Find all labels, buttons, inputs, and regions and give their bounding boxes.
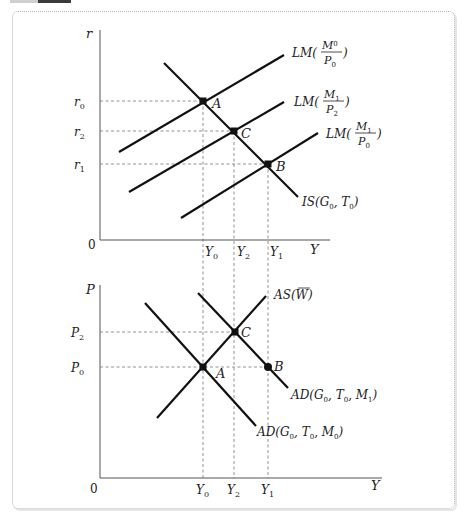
is-label: IS(G0, T0) [301,195,359,211]
lm-m1-p2-curve [129,102,284,192]
tick-y1-bottom: Y1 [261,483,274,499]
tick-p0: P0 [70,361,84,377]
tick-y2-bottom: Y2 [227,483,240,499]
tick-r0: r0 [74,95,85,111]
y-axis-label-top: Y [310,242,320,257]
svg-text:): ) [342,46,348,60]
svg-text:M0: M0 [321,39,338,52]
svg-text:P0: P0 [357,135,370,150]
tick-p2: P2 [70,326,84,342]
svg-text:LM(: LM( [325,127,351,141]
svg-text:): ) [376,127,382,141]
lm-m1-p0-label: LM( M1 P0 ) [325,120,382,150]
tick-y2-top: Y2 [237,245,250,261]
tick-y0-top: Y0 [205,245,218,261]
label-a-top: A [211,96,221,111]
ad-m0-label: AD(G0, T0, M0) [256,425,344,441]
ad-as-chart: P 0 Y P2 P0 Y0 Y2 Y1 A C B AS(W) AD(G0, … [70,282,382,499]
is-lm-chart: r 0 Y r0 r2 r1 Y0 Y2 Y1 A C B LM( M0 P0 … [74,26,382,261]
point-b-top [265,161,272,168]
lm-m1-p0-curve [181,133,318,218]
point-c-top [231,128,238,135]
svg-text:AS(W): AS(W) [273,288,313,302]
point-b-bottom [264,363,272,371]
svg-text:LM(: LM( [293,95,319,109]
tick-y1-top: Y1 [270,245,283,261]
p-axis-label: P [85,282,95,297]
label-c-top: C [241,126,251,141]
y-axis-label-bottom: Y [371,478,381,493]
svg-text:): ) [344,95,350,109]
svg-text:P0: P0 [323,54,336,69]
svg-text:P2: P2 [325,103,338,118]
point-c-bottom [232,329,239,336]
ad-m1-label: AD(G0, T0, M1) [290,388,378,404]
point-a-top [200,98,207,105]
as-label: AS(W) [273,288,313,302]
lm-m1-p2-label: LM( M1 P2 ) [293,88,350,118]
lm-m0-p0-label: LM( M0 P0 ) [291,39,348,69]
tick-r2: r2 [74,125,85,141]
svg-text:LM(: LM( [291,46,317,60]
r-axis-label: r [86,26,93,41]
label-b-bottom: B [273,359,284,374]
label-b-top: B [275,159,286,174]
origin-label-top: 0 [88,238,96,252]
is-lm-ad-as-diagram: r 0 Y r0 r2 r1 Y0 Y2 Y1 A C B LM( M0 P0 … [0,0,469,522]
point-a-bottom [200,364,207,371]
label-c-bottom: C [241,325,251,340]
tick-y0-bottom: Y0 [196,483,209,499]
origin-label-bottom: 0 [90,482,98,496]
label-a-bottom: A [215,366,225,381]
as-curve [157,296,266,418]
tick-r1: r1 [74,158,85,174]
